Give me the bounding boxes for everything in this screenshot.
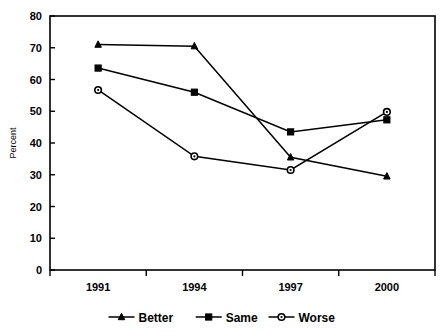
y-tick-label: 10 (30, 232, 42, 244)
legend-label: Same (226, 311, 258, 325)
marker-square (288, 129, 294, 135)
line-chart: 01020304050607080 1991199419972000 Perce… (0, 0, 447, 332)
y-tick-label: 70 (30, 42, 42, 54)
marker-square (384, 117, 390, 123)
y-tick-label: 30 (30, 169, 42, 181)
marker-square (191, 89, 197, 95)
y-tick-label: 40 (30, 137, 42, 149)
y-tick-label: 60 (30, 74, 42, 86)
marker-square (206, 314, 212, 320)
x-tick-label: 2000 (375, 281, 399, 293)
x-tick-label: 1994 (182, 281, 207, 293)
y-tick-label: 50 (30, 105, 42, 117)
y-tick-label: 20 (30, 201, 42, 213)
chart-container: 01020304050607080 1991199419972000 Perce… (0, 0, 447, 332)
marker-circle-center (97, 89, 99, 91)
legend-label: Better (139, 311, 174, 325)
y-tick-label: 80 (30, 10, 42, 22)
x-tick-label: 1991 (86, 281, 110, 293)
marker-circle-center (386, 111, 388, 113)
legend-label: Worse (299, 311, 336, 325)
x-tick-label: 1997 (278, 281, 302, 293)
marker-circle-center (280, 316, 282, 318)
y-axis-title: Percent (8, 127, 18, 159)
y-tick-label: 0 (36, 264, 42, 276)
marker-circle-center (290, 169, 292, 171)
marker-circle-center (193, 155, 195, 157)
marker-square (95, 65, 101, 71)
